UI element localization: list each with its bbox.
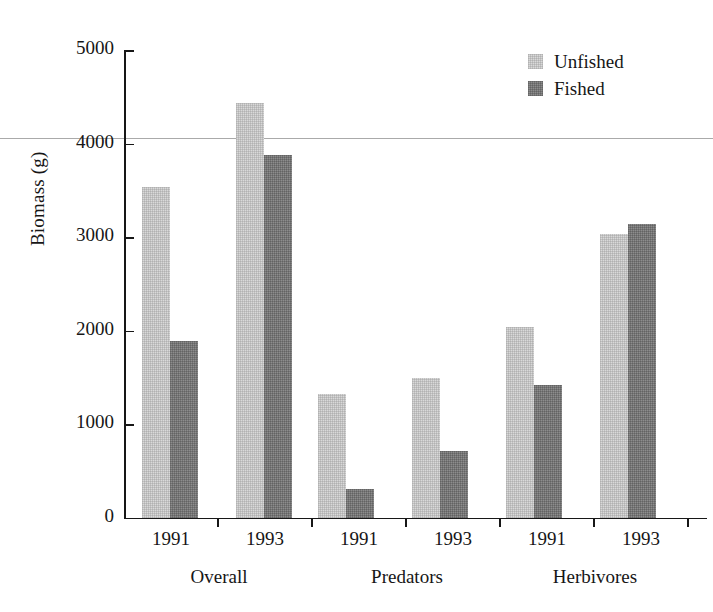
bar-fished-herbivores-1991 bbox=[534, 385, 562, 518]
bar-fished-predators-1991 bbox=[346, 489, 374, 518]
y-tick-label: 5000 bbox=[0, 37, 114, 59]
x-group-label-overall: Overall bbox=[129, 566, 309, 588]
x-group-label-herbivores: Herbivores bbox=[505, 566, 685, 588]
x-label-predators-1993: 1993 bbox=[408, 528, 498, 550]
x-label-overall-1991: 1991 bbox=[126, 528, 216, 550]
legend-swatch-unfished-icon bbox=[528, 54, 543, 69]
y-tick-mark bbox=[125, 50, 134, 52]
x-label-overall-1993: 1993 bbox=[220, 528, 310, 550]
bar-fished-overall-1991 bbox=[170, 341, 198, 518]
bar-chart: Biomass (g) 5000 4000 3000 2000 1000 0 bbox=[0, 0, 713, 612]
x-tick-mark bbox=[687, 518, 689, 527]
y-tick-label: 3000 bbox=[0, 224, 114, 246]
y-tick-mark bbox=[125, 518, 134, 520]
legend-item-unfished: Unfished bbox=[528, 48, 624, 75]
y-tick-label: 2000 bbox=[0, 318, 114, 340]
x-label-predators-1991: 1991 bbox=[314, 528, 404, 550]
x-group-label-predators: Predators bbox=[317, 566, 497, 588]
y-axis-line bbox=[124, 50, 126, 519]
x-tick-mark bbox=[405, 518, 407, 527]
bar-fished-herbivores-1993 bbox=[628, 224, 656, 518]
bar-fished-predators-1993 bbox=[440, 451, 468, 518]
legend-label-unfished: Unfished bbox=[554, 51, 624, 73]
y-tick-mark bbox=[125, 424, 134, 426]
bar-unfished-predators-1993 bbox=[412, 378, 440, 518]
x-label-herbivores-1991: 1991 bbox=[502, 528, 592, 550]
y-tick-mark bbox=[125, 331, 134, 333]
x-tick-mark bbox=[499, 518, 501, 527]
x-tick-mark bbox=[593, 518, 595, 527]
y-tick-label: 0 bbox=[0, 505, 114, 527]
y-tick-label: 1000 bbox=[0, 411, 114, 433]
x-tick-mark bbox=[217, 518, 219, 527]
bar-unfished-herbivores-1991 bbox=[506, 327, 534, 518]
bar-unfished-overall-1993 bbox=[236, 103, 264, 518]
y-tick-label: 4000 bbox=[0, 131, 114, 153]
legend-label-fished: Fished bbox=[554, 78, 605, 100]
legend-swatch-fished-icon bbox=[528, 81, 543, 96]
bar-unfished-overall-1991 bbox=[142, 187, 170, 518]
bar-unfished-predators-1991 bbox=[318, 394, 346, 518]
legend-item-fished: Fished bbox=[528, 75, 624, 102]
x-tick-mark bbox=[311, 518, 313, 527]
legend: Unfished Fished bbox=[528, 48, 624, 102]
y-tick-mark bbox=[125, 144, 134, 146]
x-label-herbivores-1993: 1993 bbox=[596, 528, 686, 550]
bar-unfished-herbivores-1993 bbox=[600, 234, 628, 518]
y-tick-mark bbox=[125, 237, 134, 239]
bar-fished-overall-1993 bbox=[264, 155, 292, 518]
